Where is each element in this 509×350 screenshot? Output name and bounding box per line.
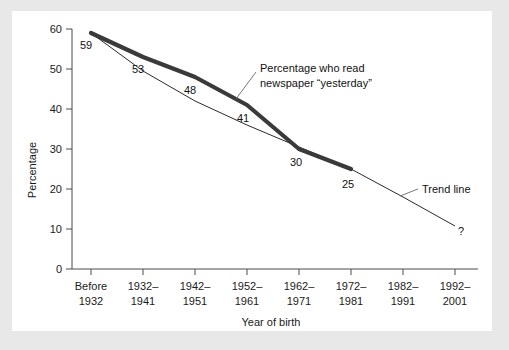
value-label-53: 53 xyxy=(132,63,144,75)
x-label-3-line2: 1961 xyxy=(235,295,259,307)
x-label-1-line2: 1941 xyxy=(131,295,155,307)
value-label-41: 41 xyxy=(237,112,249,124)
y-tick-label-60: 60 xyxy=(50,23,62,35)
x-label-0-line1: Before xyxy=(75,280,107,292)
y-tick-label-0: 0 xyxy=(56,263,62,275)
value-label-48: 48 xyxy=(184,84,196,96)
chart-page: 60 50 40 30 20 10 0 Percentage Before 19… xyxy=(0,0,509,350)
x-label-5-line1: 1972– xyxy=(336,280,367,292)
series-annotation-leader xyxy=(236,72,256,99)
value-label-30: 30 xyxy=(290,156,302,168)
trend-annotation-label: Trend line xyxy=(422,183,471,195)
x-label-2-line2: 1951 xyxy=(183,295,207,307)
y-axis-title: Percentage xyxy=(26,142,38,198)
y-tick-label-40: 40 xyxy=(50,103,62,115)
x-label-5-line2: 1981 xyxy=(339,295,363,307)
x-label-4-line1: 1962– xyxy=(284,280,315,292)
x-label-2-line1: 1942– xyxy=(180,280,211,292)
trend-annotation-leader xyxy=(400,189,418,196)
trend-endpoint-label: ? xyxy=(458,225,464,237)
x-axis-title: Year of birth xyxy=(242,316,301,328)
x-label-7-line1: 1992– xyxy=(440,280,471,292)
series-annotation-line2: newspaper “yesterday” xyxy=(260,77,372,89)
series-annotation-line1: Percentage who read xyxy=(260,62,365,74)
value-label-25: 25 xyxy=(342,178,354,190)
newspaper-readership-line-chart: 60 50 40 30 20 10 0 Percentage Before 19… xyxy=(0,0,509,350)
x-label-1-line1: 1932– xyxy=(128,280,159,292)
readership-data-line xyxy=(91,33,351,169)
value-label-59: 59 xyxy=(80,39,92,51)
x-label-4-line2: 1971 xyxy=(287,295,311,307)
y-tick-label-50: 50 xyxy=(50,63,62,75)
x-label-7-line2: 2001 xyxy=(443,295,467,307)
x-label-3-line1: 1952– xyxy=(232,280,263,292)
x-label-0-line2: 1932 xyxy=(79,295,103,307)
x-label-6-line2: 1991 xyxy=(391,295,415,307)
x-label-6-line1: 1982– xyxy=(388,280,419,292)
y-tick-label-30: 30 xyxy=(50,143,62,155)
y-tick-label-10: 10 xyxy=(50,223,62,235)
y-tick-label-20: 20 xyxy=(50,183,62,195)
